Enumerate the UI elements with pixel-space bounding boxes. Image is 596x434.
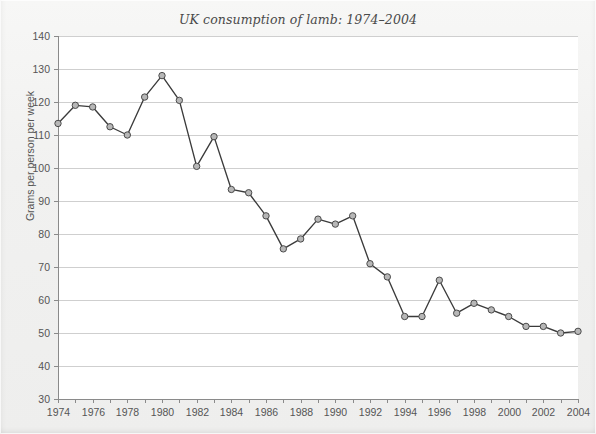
y-axis-ticks: 30405060708090100110120130140: [32, 30, 58, 405]
chart-page: UK consumption of lamb: 1974–2004 Grams …: [0, 0, 596, 434]
data-point-marker: [107, 124, 113, 130]
y-tick-label: 30: [38, 393, 50, 405]
data-point-marker: [263, 213, 269, 219]
x-tick-label: 1990: [324, 406, 348, 418]
data-point-marker: [72, 102, 78, 108]
data-point-marker: [471, 300, 477, 306]
data-point-marker: [211, 133, 217, 139]
x-tick-label: 1998: [463, 406, 487, 418]
x-tick-label: 1996: [428, 406, 452, 418]
x-tick-label: 1980: [151, 406, 175, 418]
x-tick-label: 1978: [116, 406, 140, 418]
x-tick-label: 1994: [394, 406, 418, 418]
data-point-marker: [419, 313, 425, 319]
data-point-marker: [315, 216, 321, 222]
x-tick-label: 1982: [186, 406, 210, 418]
y-tick-label: 140: [32, 30, 50, 42]
data-point-marker: [367, 261, 373, 267]
data-point-marker: [349, 213, 355, 219]
y-tick-label: 130: [32, 63, 50, 75]
y-tick-label: 80: [38, 228, 50, 240]
data-point-marker: [436, 277, 442, 283]
y-tick-label: 100: [32, 162, 50, 174]
data-point-marker: [332, 221, 338, 227]
x-tick-label: 1992: [359, 406, 383, 418]
data-point-marker: [176, 97, 182, 103]
data-point-marker: [141, 94, 147, 100]
data-point-marker: [124, 132, 130, 138]
x-axis-ticks: 1974197619781980198219841986198819901992…: [47, 399, 591, 418]
data-point-marker: [488, 307, 494, 313]
data-point-marker: [297, 236, 303, 242]
data-point-marker: [89, 104, 95, 110]
data-point-marker: [159, 72, 165, 78]
data-point-marker: [453, 310, 459, 316]
data-point-marker: [540, 323, 546, 329]
data-point-marker: [55, 120, 61, 126]
data-point-marker: [193, 163, 199, 169]
data-point-marker: [401, 313, 407, 319]
y-tick-label: 110: [33, 129, 50, 141]
x-tick-label: 1974: [47, 406, 71, 418]
y-tick-label: 90: [38, 195, 50, 207]
y-tick-label: 70: [38, 261, 50, 273]
data-point-marker: [523, 323, 529, 329]
data-point-marker: [505, 313, 511, 319]
x-tick-label: 2004: [567, 406, 591, 418]
data-point-marker: [557, 330, 563, 336]
x-tick-label: 2002: [532, 406, 556, 418]
data-point-marker: [245, 190, 251, 196]
x-tick-label: 1988: [290, 406, 314, 418]
y-tick-label: 120: [32, 96, 50, 108]
data-point-marker: [575, 328, 581, 334]
data-point-marker: [280, 246, 286, 252]
y-tick-label: 60: [38, 294, 50, 306]
data-point-marker: [228, 186, 234, 192]
x-tick-label: 1986: [255, 406, 279, 418]
x-tick-label: 2000: [498, 406, 522, 418]
x-tick-label: 1976: [82, 406, 106, 418]
y-tick-label: 40: [38, 360, 50, 372]
data-point-marker: [384, 274, 390, 280]
line-chart-plot: 30405060708090100110120130140 1974197619…: [0, 0, 596, 434]
y-tick-label: 50: [38, 327, 50, 339]
x-tick-label: 1984: [220, 406, 244, 418]
